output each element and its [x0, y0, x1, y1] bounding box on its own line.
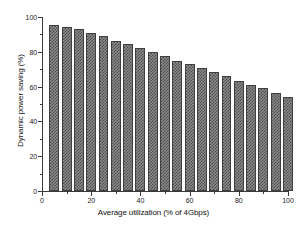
bar — [258, 88, 268, 191]
x-tick-major — [288, 192, 289, 196]
bar — [172, 61, 182, 192]
bar — [49, 25, 59, 191]
bar — [222, 76, 232, 191]
y-tick-major — [38, 52, 42, 53]
x-tick-minor — [214, 192, 215, 194]
bar — [135, 48, 145, 191]
y-tick-major — [38, 17, 42, 18]
chart-figure: 020406080100020406080100 Average utiliza… — [0, 0, 307, 236]
x-tick-minor — [165, 192, 166, 194]
y-tick-minor — [40, 69, 42, 70]
x-tick-label: 20 — [79, 197, 103, 204]
bar — [111, 41, 121, 192]
bar — [234, 81, 244, 191]
x-tick-major — [140, 192, 141, 196]
y-tick-major — [38, 121, 42, 122]
x-tick-label: 0 — [30, 197, 54, 204]
x-tick-label: 100 — [276, 197, 300, 204]
y-tick-minor — [40, 34, 42, 35]
x-tick-label: 40 — [128, 197, 152, 204]
y-axis-title: Dynamic power saving (%) — [16, 11, 25, 191]
x-axis-title: Average utilization (% of 4Gbps) — [0, 208, 307, 217]
x-tick-label: 60 — [178, 197, 202, 204]
y-axis-line — [42, 17, 43, 192]
bar — [99, 36, 109, 191]
x-tick-minor — [263, 192, 264, 194]
x-tick-major — [42, 192, 43, 196]
x-tick-minor — [116, 192, 117, 194]
bar — [185, 64, 195, 191]
x-tick-major — [239, 192, 240, 196]
bar — [246, 85, 256, 191]
bar — [209, 72, 219, 191]
x-tick-major — [91, 192, 92, 196]
bar — [148, 52, 158, 191]
plot-area — [42, 17, 288, 191]
x-tick-minor — [67, 192, 68, 194]
y-tick-major — [38, 87, 42, 88]
bar — [271, 93, 281, 191]
bar — [123, 44, 133, 191]
bar — [283, 97, 293, 191]
x-tick-major — [190, 192, 191, 196]
y-tick-minor — [40, 174, 42, 175]
y-tick-major — [38, 156, 42, 157]
bar — [160, 56, 170, 191]
bar — [197, 68, 207, 191]
y-tick-minor — [40, 139, 42, 140]
y-tick-minor — [40, 104, 42, 105]
bar — [74, 29, 84, 191]
x-tick-label: 80 — [227, 197, 251, 204]
bar — [86, 33, 96, 191]
bar — [62, 27, 72, 191]
